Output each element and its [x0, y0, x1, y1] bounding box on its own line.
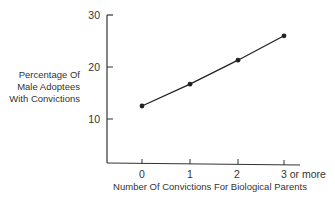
- y-tick-label: 30: [88, 9, 100, 21]
- x-tick-label: 0: [139, 168, 145, 180]
- x-tick-label: 1: [187, 168, 193, 180]
- y-tick-label: 20: [88, 61, 100, 73]
- x-axis: [107, 163, 300, 165]
- x-tick-label: 3 or more: [281, 168, 326, 180]
- y-ticks: 30 20 10: [88, 9, 113, 125]
- y-axis-label-line-1: Percentage Of: [19, 69, 81, 80]
- x-tick-label: 2: [234, 168, 240, 180]
- data-point: [236, 58, 241, 63]
- x-ticks: 0 1 2 3 or more: [139, 159, 326, 180]
- y-axis-label-line-3: With Convictions: [9, 93, 80, 104]
- line-chart: 30 20 10 0 1 2 3 or more Number Of Convi…: [0, 0, 335, 198]
- y-tick-label: 10: [88, 113, 100, 125]
- data-point: [188, 82, 193, 87]
- data-point: [282, 33, 287, 38]
- data-line: [142, 36, 284, 106]
- y-axis-label-line-2: Male Adoptees: [17, 81, 80, 92]
- x-axis-label: Number Of Convictions For Biological Par…: [113, 181, 307, 192]
- data-point: [140, 104, 145, 109]
